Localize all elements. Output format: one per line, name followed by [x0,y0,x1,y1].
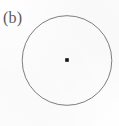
figure-panel-b: (b) [0,0,119,126]
circle-center-dot [65,58,69,62]
panel-label: (b) [3,9,22,27]
